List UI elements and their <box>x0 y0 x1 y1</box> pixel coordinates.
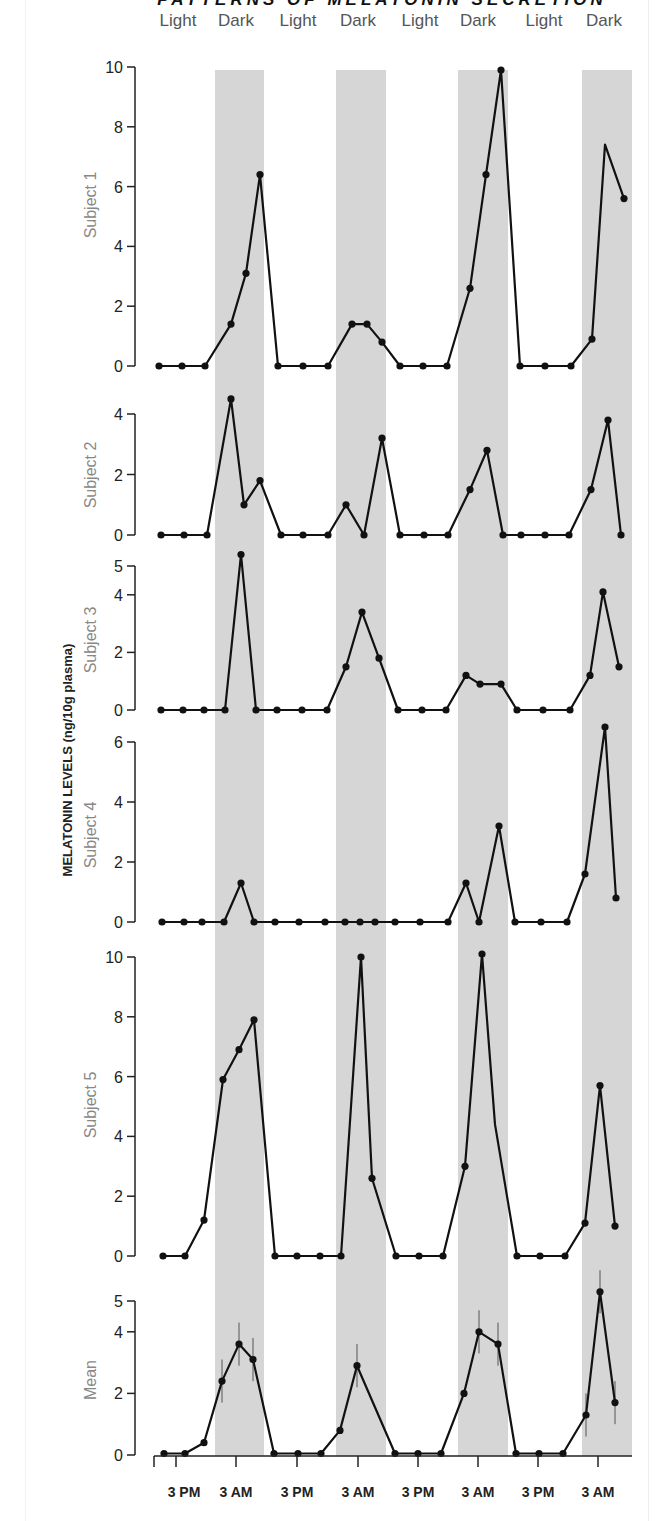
data-point <box>511 918 518 925</box>
data-point <box>516 362 523 369</box>
data-point <box>419 362 426 369</box>
y-tick-label: 0 <box>114 914 123 931</box>
data-point <box>200 706 207 713</box>
data-point <box>250 1016 257 1023</box>
y-tick-label: 8 <box>114 119 123 136</box>
x-tick-label: 3 AM <box>582 1484 615 1500</box>
y-tick-label: 0 <box>114 358 123 375</box>
panel-label: Subject 1 <box>82 172 99 239</box>
data-point <box>219 1076 226 1083</box>
dark-band <box>215 70 264 1456</box>
data-point <box>604 417 611 424</box>
data-point <box>273 706 280 713</box>
data-point <box>462 879 469 886</box>
period-label-light: Light <box>402 11 439 30</box>
y-tick-label: 4 <box>114 1128 123 1145</box>
data-point <box>200 1439 207 1446</box>
data-point <box>368 1175 375 1182</box>
data-point <box>321 918 328 925</box>
data-point <box>181 1252 188 1259</box>
data-point <box>180 531 187 538</box>
data-point <box>299 362 306 369</box>
panel-label: Mean <box>82 1360 99 1400</box>
data-point <box>295 918 302 925</box>
data-point <box>342 663 349 670</box>
data-point <box>227 395 234 402</box>
y-tick-label: 4 <box>114 238 123 255</box>
period-label-dark: Dark <box>586 11 622 30</box>
data-point <box>396 531 403 538</box>
x-tick-label: 3 PM <box>402 1484 435 1500</box>
data-point <box>482 171 489 178</box>
data-point <box>586 672 593 679</box>
data-point <box>341 918 348 925</box>
y-axis-label: MELATONIN LEVELS (ng/10g plasma) <box>60 644 75 877</box>
melatonin-chart: PATTERNS OF MELATONIN SECRETION LightDar… <box>0 0 667 1521</box>
data-point <box>612 894 619 901</box>
data-point <box>157 531 164 538</box>
data-point <box>416 918 423 925</box>
data-point <box>442 706 449 713</box>
data-point <box>378 339 385 346</box>
x-tick-label: 3 PM <box>522 1484 555 1500</box>
data-point <box>203 531 210 538</box>
y-tick-label: 5 <box>114 1293 123 1310</box>
data-point <box>539 706 546 713</box>
data-point <box>494 1341 501 1348</box>
y-tick-label: 2 <box>114 644 123 661</box>
data-point <box>601 723 608 730</box>
y-tick-label: 2 <box>114 467 123 484</box>
data-point <box>475 918 482 925</box>
data-point <box>237 879 244 886</box>
y-tick-label: 0 <box>114 527 123 544</box>
data-point <box>483 447 490 454</box>
data-point <box>466 486 473 493</box>
period-label-dark: Dark <box>218 11 254 30</box>
data-point <box>271 918 278 925</box>
y-tick-label: 6 <box>114 734 123 751</box>
data-point <box>563 918 570 925</box>
data-point <box>178 362 185 369</box>
y-tick-label: 8 <box>114 1009 123 1026</box>
data-point <box>356 918 363 925</box>
data-point <box>620 195 627 202</box>
data-point <box>536 1252 543 1259</box>
data-point <box>566 706 573 713</box>
y-tick-label: 4 <box>114 794 123 811</box>
data-point <box>513 1252 520 1259</box>
y-tick-label: 0 <box>114 1447 123 1464</box>
data-point <box>235 1341 242 1348</box>
data-point <box>495 822 502 829</box>
y-tick-label: 4 <box>114 587 123 604</box>
data-point <box>316 1252 323 1259</box>
data-point <box>497 66 504 73</box>
data-point <box>242 270 249 277</box>
data-point <box>179 706 186 713</box>
data-point <box>371 918 378 925</box>
y-tick-label: 0 <box>114 1248 123 1265</box>
data-point <box>565 531 572 538</box>
data-point <box>159 1252 166 1259</box>
data-point <box>596 1288 603 1295</box>
data-point <box>599 588 606 595</box>
data-point <box>418 706 425 713</box>
data-point <box>394 706 401 713</box>
data-point <box>375 655 382 662</box>
data-point <box>324 531 331 538</box>
panel-label: Subject 3 <box>82 607 99 674</box>
x-tick-label: 3 AM <box>462 1484 495 1500</box>
data-point <box>221 706 228 713</box>
data-point <box>517 531 524 538</box>
period-label-light: Light <box>160 11 197 30</box>
data-point <box>235 1046 242 1053</box>
data-point <box>256 477 263 484</box>
data-point <box>158 918 165 925</box>
data-point <box>363 321 370 328</box>
data-point <box>220 918 227 925</box>
panel-label: Subject 4 <box>82 802 99 869</box>
panel-label: Subject 5 <box>82 1072 99 1139</box>
data-point <box>358 609 365 616</box>
x-tick-label: 3 AM <box>220 1484 253 1500</box>
data-point <box>596 1082 603 1089</box>
data-point <box>587 486 594 493</box>
